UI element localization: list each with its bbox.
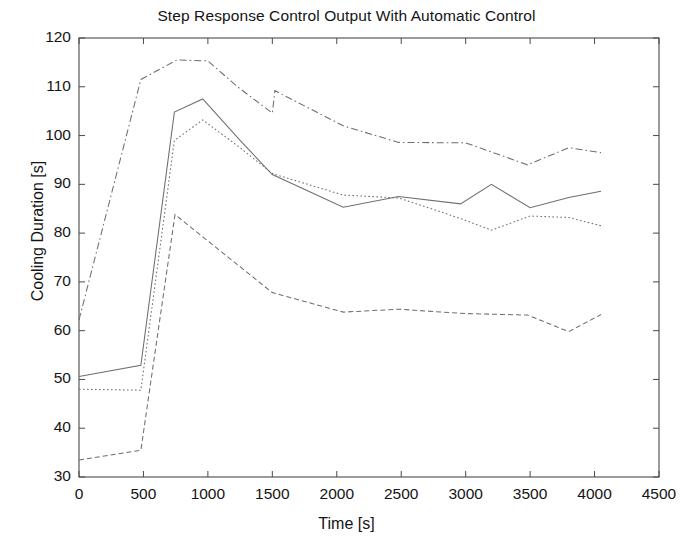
y-tick-label: 80 — [25, 223, 71, 241]
y-tick-label: 90 — [25, 174, 71, 192]
y-tick-label: 120 — [25, 28, 71, 46]
x-tick-label: 2000 — [302, 485, 372, 503]
x-tick-label: 1500 — [237, 485, 307, 503]
y-tick-label: 30 — [25, 467, 71, 485]
axes-frame — [79, 38, 659, 477]
x-tick-label: 3500 — [495, 485, 565, 503]
y-tick-label: 100 — [25, 126, 71, 144]
plot-area — [0, 0, 693, 548]
x-tick-label: 0 — [44, 485, 114, 503]
x-tick-label: 500 — [108, 485, 178, 503]
x-tick-label: 4500 — [624, 485, 693, 503]
y-tick-label: 110 — [25, 77, 71, 95]
x-tick-label: 1000 — [173, 485, 243, 503]
chart-figure: Step Response Control Output With Automa… — [0, 0, 693, 548]
axes-border — [79, 38, 659, 477]
y-tick-label: 60 — [25, 321, 71, 339]
y-tick-label: 70 — [25, 272, 71, 290]
x-tick-label: 3000 — [431, 485, 501, 503]
y-tick-label: 50 — [25, 369, 71, 387]
data-series-group — [79, 60, 601, 460]
data-series-line-4 — [79, 215, 601, 460]
x-tick-label: 4000 — [560, 485, 630, 503]
x-tick-label: 2500 — [366, 485, 436, 503]
axis-tick-marks — [79, 38, 659, 477]
data-series-line-1 — [79, 60, 601, 320]
data-series-line-3 — [79, 120, 601, 390]
y-tick-label: 40 — [25, 418, 71, 436]
